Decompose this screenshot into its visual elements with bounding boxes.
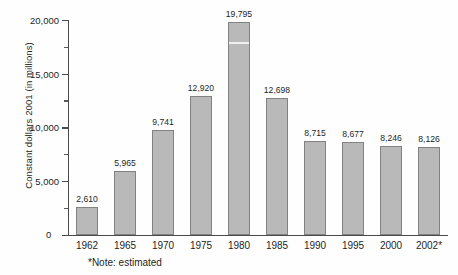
- bar-2000[interactable]: [380, 146, 403, 234]
- x-tick-label: 2000: [380, 240, 402, 251]
- bar-value-label: 5,965: [114, 158, 136, 168]
- bar-column[interactable]: 19,795: [228, 20, 251, 235]
- bar-1985[interactable]: [266, 98, 289, 234]
- y-tick-label: 20,000: [30, 15, 59, 26]
- bar-value-label: 2,610: [76, 194, 98, 204]
- y-tick-major: [62, 235, 68, 236]
- bar-value-label: 19,795: [226, 9, 252, 19]
- bar-column[interactable]: 12,698: [266, 20, 289, 235]
- bar-value-label: 8,126: [418, 134, 440, 144]
- x-axis-line: [68, 235, 448, 236]
- bar-column[interactable]: 8,715: [304, 20, 327, 235]
- bar-1962[interactable]: [76, 207, 99, 235]
- bar-value-label: 8,677: [342, 129, 364, 139]
- y-tick-label: 10,000: [30, 122, 59, 133]
- bars-layer: 2,6105,9659,74112,92019,79512,6988,7158,…: [68, 20, 448, 235]
- y-tick-label: 5,000: [35, 175, 59, 186]
- bar-chart-figure: Constant dollars 2001 (in millions) 5,00…: [0, 0, 458, 275]
- bar-column[interactable]: 8,677: [342, 20, 365, 235]
- x-tick-label: 1995: [342, 240, 364, 251]
- bar-value-label: 12,698: [264, 85, 290, 95]
- x-tick-label: 1985: [266, 240, 288, 251]
- bar-value-label: 8,715: [304, 128, 326, 138]
- x-tick-labels: 1962196519701975198019851990199520002002…: [68, 240, 448, 256]
- x-tick-label: 1975: [190, 240, 212, 251]
- bar-1990[interactable]: [304, 141, 327, 235]
- x-tick-label: 1965: [114, 240, 136, 251]
- x-tick-label: 2002*: [416, 240, 442, 251]
- bar-column[interactable]: 5,965: [114, 20, 137, 235]
- bar-value-label: 12,920: [188, 83, 214, 93]
- x-tick-label: 1980: [228, 240, 250, 251]
- bar-column[interactable]: 2,610: [76, 20, 99, 235]
- bar-1975[interactable]: [190, 96, 213, 235]
- bar-value-label: 9,741: [152, 117, 174, 127]
- bar-column[interactable]: 9,741: [152, 20, 175, 235]
- bar-column[interactable]: 8,246: [380, 20, 403, 235]
- bar-column[interactable]: 8,126: [418, 20, 441, 235]
- x-tick-label: 1970: [152, 240, 174, 251]
- footnote-note: *Note: estimated: [88, 257, 162, 268]
- bar-1980[interactable]: [228, 22, 251, 234]
- bar-scanline-artifact: [229, 42, 250, 43]
- bar-1970[interactable]: [152, 130, 175, 235]
- x-tick-label: 1962: [76, 240, 98, 251]
- y-tick-label-zero: 0: [46, 229, 51, 240]
- bar-2002[interactable]: [418, 147, 441, 234]
- bar-1965[interactable]: [114, 171, 137, 235]
- bar-1995[interactable]: [342, 142, 365, 235]
- y-axis-title: Constant dollars 2001 (in millions): [23, 16, 34, 216]
- plot-area: 5,00010,00015,00020,000 2,6105,9659,7411…: [68, 20, 448, 236]
- bar-column[interactable]: 12,920: [190, 20, 213, 235]
- x-tick-label: 1990: [304, 240, 326, 251]
- bar-value-label: 8,246: [380, 133, 402, 143]
- y-tick-label: 15,000: [30, 68, 59, 79]
